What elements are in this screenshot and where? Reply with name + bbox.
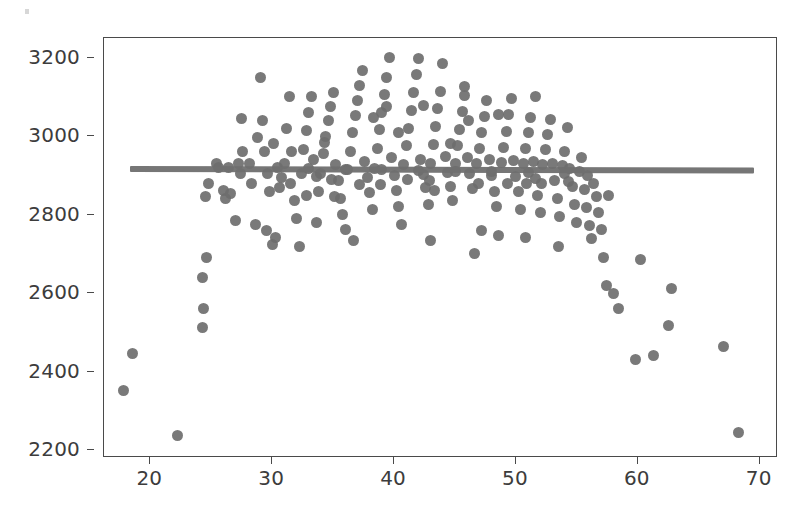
data-point	[384, 52, 395, 63]
data-point	[515, 204, 526, 215]
data-point	[340, 224, 351, 235]
data-point	[354, 179, 365, 190]
data-point	[536, 178, 547, 189]
data-point	[463, 115, 474, 126]
data-point	[520, 232, 531, 243]
data-point	[197, 322, 208, 333]
y-tick-mark	[87, 449, 94, 450]
data-point	[328, 87, 339, 98]
data-point	[552, 193, 563, 204]
data-point	[375, 179, 386, 190]
data-point	[418, 100, 429, 111]
data-point	[406, 105, 417, 116]
data-point	[396, 219, 407, 230]
data-point	[250, 219, 261, 230]
data-point	[127, 348, 138, 359]
data-point	[198, 303, 209, 314]
data-point	[294, 241, 305, 252]
data-point	[648, 350, 659, 361]
data-point	[540, 144, 551, 155]
data-point	[545, 114, 556, 125]
data-point	[596, 224, 607, 235]
data-point	[432, 103, 443, 114]
data-point	[268, 138, 279, 149]
data-point	[445, 181, 456, 192]
data-point	[284, 91, 295, 102]
data-point	[289, 195, 300, 206]
data-point	[386, 152, 397, 163]
data-point	[554, 211, 565, 222]
data-point	[401, 140, 412, 151]
data-point	[357, 65, 368, 76]
regression-line	[130, 166, 754, 174]
data-point	[454, 124, 465, 135]
data-point	[569, 199, 580, 210]
data-point	[298, 144, 309, 155]
data-point	[542, 129, 553, 140]
data-point	[368, 112, 379, 123]
data-point	[425, 235, 436, 246]
scatter-plot-figure: 220024002600280030003200 203040506070	[0, 0, 806, 517]
data-point	[559, 146, 570, 157]
data-point	[323, 115, 334, 126]
y-axis-tick-labels: 220024002600280030003200	[0, 37, 94, 457]
x-tick-label: 20	[136, 466, 162, 490]
data-point	[274, 182, 285, 193]
data-point	[484, 154, 495, 165]
data-point	[571, 217, 582, 228]
data-point	[318, 148, 329, 159]
data-point	[325, 101, 336, 112]
data-point	[352, 95, 363, 106]
data-point	[513, 186, 524, 197]
data-point	[429, 185, 440, 196]
data-point	[435, 86, 446, 97]
y-tick-label: 2200	[28, 437, 80, 461]
data-point	[118, 385, 129, 396]
data-point	[493, 109, 504, 120]
data-point	[259, 146, 270, 157]
image-artifact-speck	[25, 9, 29, 14]
data-point	[630, 354, 641, 365]
data-point	[498, 142, 509, 153]
data-point	[535, 207, 546, 218]
y-tick-mark	[87, 135, 94, 136]
data-point	[521, 178, 532, 189]
y-tick-mark	[87, 292, 94, 293]
data-point	[586, 233, 597, 244]
data-point	[501, 126, 512, 137]
data-point	[663, 320, 674, 331]
data-point	[613, 303, 624, 314]
x-tick-label: 40	[380, 466, 406, 490]
data-point	[474, 143, 485, 154]
data-point	[374, 124, 385, 135]
y-tick-label: 2600	[28, 280, 80, 304]
x-tick-label: 50	[502, 466, 528, 490]
data-point	[473, 178, 484, 189]
data-point	[413, 53, 424, 64]
data-point	[408, 87, 419, 98]
x-tick-label: 30	[258, 466, 284, 490]
data-point	[246, 178, 257, 189]
data-point	[264, 186, 275, 197]
data-point	[393, 127, 404, 138]
data-point	[364, 187, 375, 198]
data-point	[476, 225, 487, 236]
data-point	[393, 201, 404, 212]
data-point	[348, 235, 359, 246]
data-point	[423, 199, 434, 210]
data-point	[252, 132, 263, 143]
data-point	[237, 146, 248, 157]
data-point	[598, 252, 609, 263]
data-point	[367, 204, 378, 215]
data-point	[281, 123, 292, 134]
data-point	[347, 127, 358, 138]
y-tick-label: 2400	[28, 359, 80, 383]
data-point	[608, 288, 619, 299]
data-point	[301, 125, 312, 136]
y-tick-mark	[87, 214, 94, 215]
data-point	[666, 283, 677, 294]
data-point	[381, 72, 392, 83]
data-point	[372, 143, 383, 154]
data-point	[532, 190, 543, 201]
data-point	[225, 188, 236, 199]
